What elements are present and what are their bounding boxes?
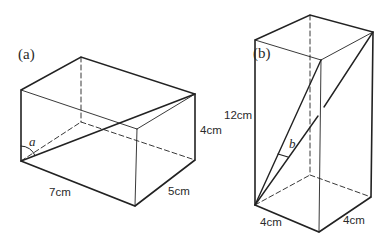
angle-b-label: b	[289, 136, 296, 151]
length-label-b: 4cm	[260, 216, 282, 228]
space-diagonal	[255, 116, 318, 205]
angle-a-label: a	[29, 134, 36, 149]
cuboid-b	[255, 15, 373, 232]
space-diagonal	[324, 32, 373, 107]
hidden-edge	[81, 122, 195, 160]
angle-marker	[278, 154, 288, 157]
face-diagonal	[255, 60, 321, 205]
outline	[21, 57, 195, 206]
hidden-edge	[255, 175, 310, 205]
length-label: 7cm	[49, 186, 71, 198]
outline	[255, 15, 373, 232]
edge	[321, 32, 373, 60]
width-label-b: 4cm	[343, 214, 365, 226]
height-label: 4cm	[200, 124, 222, 136]
cuboid-a	[21, 57, 195, 206]
diagram-canvas: (a) a 7cm 5cm 4cm (b) b 12cm 4cm 4cm	[0, 0, 383, 238]
edge	[319, 60, 321, 232]
height-label-b: 12cm	[224, 109, 252, 121]
edge	[137, 94, 195, 129]
figure-b-label: (b)	[253, 45, 271, 62]
width-label: 5cm	[168, 185, 190, 197]
figure-a-label: (a)	[18, 46, 35, 63]
